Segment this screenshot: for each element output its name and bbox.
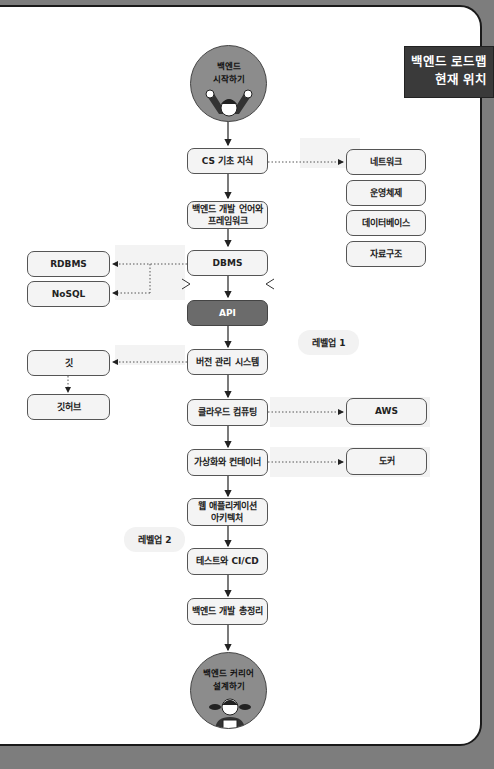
node-database[interactable]: 데이터베이스 [346, 210, 426, 236]
start-node[interactable]: 백엔드 시작하기 [190, 45, 267, 122]
node-rdbms[interactable]: RDBMS [27, 251, 110, 277]
node-github[interactable]: 깃허브 [27, 394, 110, 420]
node-network[interactable]: 네트워크 [346, 149, 426, 175]
start-label-1: 백엔드 [191, 60, 266, 73]
banner-title: 백엔드 로드맵 [409, 53, 487, 71]
level-up-1-label: 레벨업 1 [298, 330, 359, 355]
node-operating-system[interactable]: 운영체제 [346, 180, 426, 206]
node-dbms[interactable]: DBMS [187, 250, 268, 276]
node-cs-basics[interactable]: CS 기초 지식 [187, 148, 268, 174]
node-test-cicd[interactable]: 테스트와 CI/CD [187, 548, 268, 575]
node-api[interactable]: API [187, 300, 268, 326]
node-web-architecture[interactable]: 웹 애플리케이션 아키텍처 [187, 498, 268, 526]
end-label-2: 설계하기 [191, 680, 266, 693]
node-nosql[interactable]: NoSQL [27, 281, 110, 307]
banner-subtitle: 현재 위치 [409, 71, 487, 89]
node-git[interactable]: 깃 [27, 350, 110, 376]
node-aws[interactable]: AWS [346, 398, 427, 425]
node-version-control[interactable]: 버전 관리 시스템 [187, 349, 268, 375]
cheering-kid-icon [203, 88, 255, 122]
end-node[interactable]: 백엔드 커리어 설계하기 [190, 652, 267, 729]
start-label-2: 시작하기 [191, 73, 266, 86]
current-position-banner: 백엔드 로드맵 현재 위치 [404, 46, 494, 98]
node-backend-summary[interactable]: 백엔드 개발 총정리 [187, 598, 268, 625]
node-docker[interactable]: 도커 [346, 448, 427, 475]
girl-with-book-icon [209, 697, 251, 729]
node-cloud-computing[interactable]: 클라우드 컴퓨팅 [187, 399, 268, 426]
node-language-framework[interactable]: 백엔드 개발 언어와 프레임워크 [187, 201, 268, 229]
node-data-structure[interactable]: 자료구조 [346, 241, 426, 267]
end-label-1: 백엔드 커리어 [191, 667, 266, 680]
node-virtualization-container[interactable]: 가상화와 컨테이너 [187, 449, 268, 476]
level-up-2-label: 레벨업 2 [124, 527, 185, 552]
